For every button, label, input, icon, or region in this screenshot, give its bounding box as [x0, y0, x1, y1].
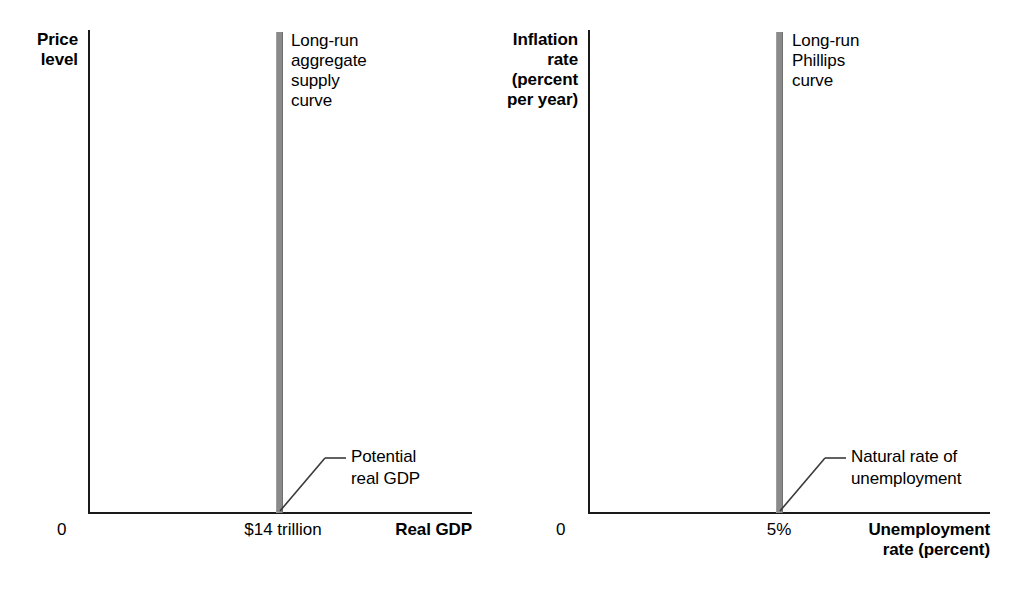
- lras-curve-label: Long-run aggregate supply curve: [291, 31, 367, 111]
- left-origin-label: 0: [57, 520, 66, 540]
- lrpc-curve-label-line-1: Long-run: [792, 31, 859, 51]
- potential-real-gdp-callout: Potential real GDP: [351, 446, 420, 490]
- right-y-axis-title: Inflation rate (percent per year): [460, 30, 578, 110]
- lras-curve-label-line-1: Long-run: [291, 31, 367, 51]
- natural-rate-of-unemployment-callout: Natural rate of unemployment: [851, 446, 961, 490]
- right-y-axis-line: [588, 30, 590, 514]
- lrpc-curve-label-line-3: curve: [792, 71, 859, 91]
- panel-aggregate-supply: Price level Long-run aggregate supply cu…: [0, 0, 506, 602]
- natural-rate-callout-line-1: Natural rate of: [851, 446, 961, 468]
- right-y-axis-title-line-3: (percent: [460, 70, 578, 90]
- right-y-axis-title-line-2: rate: [460, 50, 578, 70]
- right-x-axis-line: [588, 512, 990, 514]
- lrpc-curve-label-line-2: Phillips: [792, 51, 859, 71]
- long-run-phillips-curve[interactable]: [776, 32, 783, 513]
- lrpc-curve-label: Long-run Phillips curve: [792, 31, 859, 91]
- left-x-axis-title: Real GDP: [332, 520, 472, 540]
- right-y-axis-title-line-4: per year): [460, 90, 578, 110]
- left-y-axis-line: [88, 30, 90, 514]
- right-x-axis-title-line-2: rate (percent): [810, 540, 990, 560]
- right-origin-label: 0: [556, 520, 565, 540]
- potential-real-gdp-callout-line-1: Potential: [351, 446, 420, 468]
- right-y-axis-title-line-1: Inflation: [460, 30, 578, 50]
- right-x-tick-label: 5%: [743, 520, 815, 540]
- lras-curve-label-line-3: supply: [291, 71, 367, 91]
- long-run-aggregate-supply-curve[interactable]: [276, 32, 283, 513]
- panel-phillips-curve: Inflation rate (percent per year) Long-r…: [506, 0, 1012, 602]
- lras-curve-label-line-2: aggregate: [291, 51, 367, 71]
- left-y-axis-title-line-1: Price: [0, 30, 78, 50]
- potential-real-gdp-callout-line-2: real GDP: [351, 468, 420, 490]
- left-y-axis-title-line-2: level: [0, 50, 78, 70]
- natural-rate-callout-line-2: unemployment: [851, 468, 961, 490]
- figure-canvas: Price level Long-run aggregate supply cu…: [0, 0, 1012, 602]
- left-y-axis-title: Price level: [0, 30, 78, 70]
- right-x-axis-title: Unemployment rate (percent): [810, 520, 990, 560]
- right-x-axis-title-line-1: Unemployment: [810, 520, 990, 540]
- lras-curve-label-line-4: curve: [291, 91, 367, 111]
